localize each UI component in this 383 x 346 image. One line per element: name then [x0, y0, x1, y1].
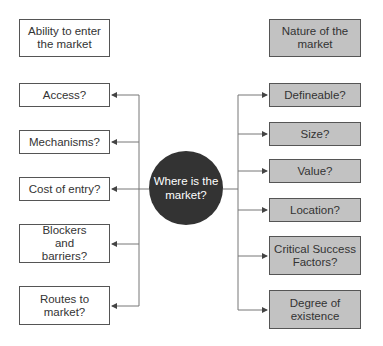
- right-item-degree: Degree of existence: [269, 290, 361, 329]
- center-label: Where is the market?: [149, 174, 223, 202]
- left-item-label: Access?: [43, 89, 86, 102]
- right-item-label: Size?: [301, 128, 330, 141]
- right-item-csf: Critical Success Factors?: [269, 236, 361, 275]
- right-item-label: Location?: [290, 204, 340, 217]
- left-item-access: Access?: [19, 83, 110, 107]
- right-item-value: Value?: [269, 159, 361, 183]
- right-item-label: Defineable?: [284, 89, 345, 102]
- left-item-mechanisms: Mechanisms?: [19, 130, 110, 154]
- right-item-size: Size?: [269, 122, 361, 146]
- left-header-box: Ability to enter the market: [19, 19, 110, 57]
- right-item-label: Degree of existence: [270, 297, 360, 323]
- left-item-label: Mechanisms?: [29, 136, 100, 149]
- right-item-label: Value?: [298, 165, 333, 178]
- right-item-location: Location?: [269, 198, 361, 222]
- left-header-label: Ability to enter the market: [20, 25, 109, 51]
- right-header-label: Nature of the market: [270, 25, 360, 51]
- left-item-routes: Routes to market?: [19, 286, 110, 325]
- left-item-cost-of-entry: Cost of entry?: [19, 177, 110, 201]
- right-item-label: Critical Success Factors?: [270, 243, 360, 269]
- right-item-defineable: Defineable?: [269, 83, 361, 107]
- left-item-label: Routes to market?: [20, 293, 109, 319]
- center-circle: Where is the market?: [149, 151, 223, 225]
- right-header-box: Nature of the market: [269, 19, 361, 57]
- left-item-label: Blockers and barriers?: [20, 224, 109, 263]
- left-item-blockers: Blockers and barriers?: [19, 224, 110, 263]
- left-item-label: Cost of entry?: [29, 183, 101, 196]
